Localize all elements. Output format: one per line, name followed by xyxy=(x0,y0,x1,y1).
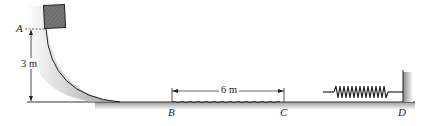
point-a-label: A xyxy=(16,22,23,34)
spring xyxy=(323,86,403,98)
point-d-label: D xyxy=(398,106,406,118)
block xyxy=(43,4,65,28)
curved-ramp xyxy=(26,6,120,102)
ground xyxy=(27,102,415,110)
point-b-label: B xyxy=(168,106,175,118)
wall xyxy=(403,70,413,102)
diagram-canvas xyxy=(0,0,424,126)
height-label: 3 m xyxy=(19,58,39,69)
length-label: 6 m xyxy=(219,84,239,95)
point-c-label: C xyxy=(280,106,287,118)
